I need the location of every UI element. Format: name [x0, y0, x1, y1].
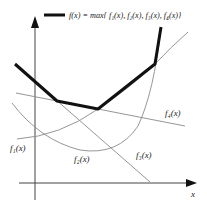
f4-label: f₄(x) [165, 108, 181, 118]
y-axis-arrow-icon [31, 16, 39, 28]
max-function-diagram: f(x) = max{ f₁(x), f₂(x), f₃(x), f₄(x)} … [0, 0, 207, 208]
legend-formula: f(x) = max{ f₁(x), f₂(x), f₃(x), f₄(x)} [69, 11, 182, 20]
component-curves [12, 27, 188, 182]
legend: f(x) = max{ f₁(x), f₂(x), f₃(x), f₄(x)} [44, 11, 182, 20]
f2-label: f₂(x) [74, 154, 90, 164]
f1-label: f₁(x) [10, 143, 26, 153]
x-axis-label: x [190, 189, 195, 199]
f2-curve [12, 27, 161, 151]
f3-label: f₃(x) [136, 150, 152, 160]
f1-curve [17, 32, 188, 139]
x-axis-arrow-icon [186, 179, 197, 187]
f4-curve [16, 93, 185, 126]
